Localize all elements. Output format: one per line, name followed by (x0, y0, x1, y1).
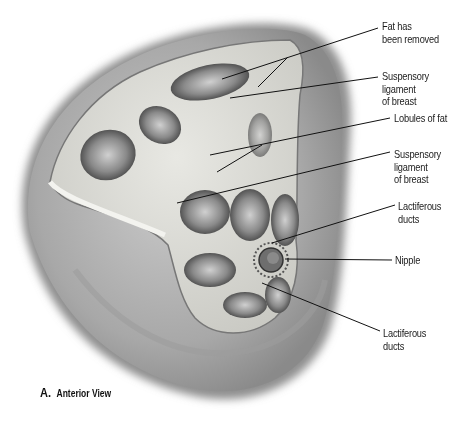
label-suspensory-ligament-2: Suspensory ligament of breast (394, 148, 441, 186)
label-suspensory-ligament-1: Suspensory ligament of breast (382, 70, 429, 108)
label-fat-removed: Fat has been removed (382, 20, 439, 45)
panel-title: Anterior View (57, 388, 112, 399)
label-nipple: Nipple (395, 254, 420, 267)
label-lobules-of-fat: Lobules of fat (394, 112, 447, 125)
panel-letter: A. (40, 385, 51, 400)
label-lactiferous-ducts-2: Lactiferous ducts (383, 327, 426, 352)
breast-anatomy-illustration (0, 0, 467, 424)
panel-caption: A. Anterior View (40, 383, 111, 401)
label-lactiferous-ducts-1: Lactiferous ducts (398, 200, 441, 225)
